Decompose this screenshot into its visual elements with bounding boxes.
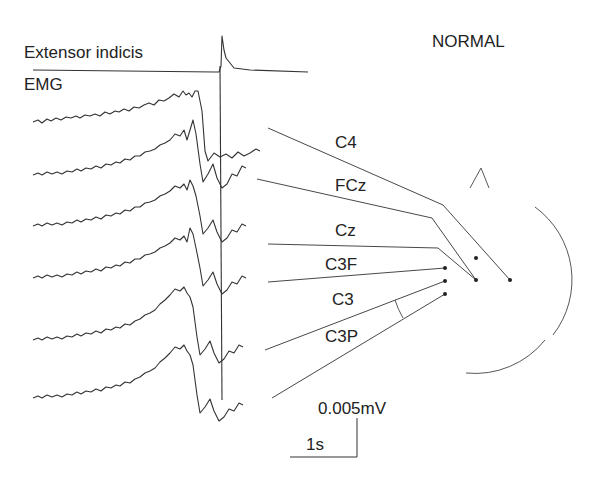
trigger-line xyxy=(220,66,222,400)
leader-fcz xyxy=(257,179,476,280)
channel-label-c3: C3 xyxy=(332,291,354,308)
time-scale-label: 1s xyxy=(306,436,324,453)
channel-label-c3f: C3F xyxy=(325,256,357,273)
eeg-trace-fcz xyxy=(33,120,246,188)
electrode-c4 xyxy=(508,278,512,282)
electrode-fcz xyxy=(474,278,478,282)
electrode-c3f xyxy=(443,266,447,270)
eeg-trace-c4 xyxy=(33,91,260,161)
channel-label-cz: Cz xyxy=(335,222,356,239)
figure-title: NORMAL xyxy=(432,33,505,50)
amplitude-scale-label: 0.005mV xyxy=(318,400,386,417)
electrode-c3 xyxy=(443,279,447,283)
channel-label-c3p: C3P xyxy=(325,328,358,345)
head-outline xyxy=(466,207,572,373)
leader-c4 xyxy=(268,128,510,280)
eeg-figure xyxy=(0,0,594,482)
nose-icon xyxy=(470,168,489,188)
leader-c3p xyxy=(272,294,445,398)
eeg-trace-cz xyxy=(33,180,246,242)
eeg-trace-c3p xyxy=(33,345,243,421)
electrode-cz xyxy=(474,256,478,260)
head-outline-left xyxy=(395,300,403,318)
channel-label-fcz: FCz xyxy=(335,177,366,194)
muscle-label: Extensor indicis xyxy=(24,44,143,61)
electrode-c3p xyxy=(443,292,447,296)
emg-label: EMG xyxy=(24,76,63,93)
channel-label-c4: C4 xyxy=(335,134,357,151)
leader-cz xyxy=(268,244,476,280)
eeg-trace-c3f xyxy=(33,228,246,294)
eeg-trace-c3 xyxy=(33,287,243,363)
